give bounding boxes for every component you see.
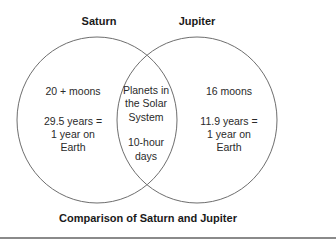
saturn-year-line2: 1 year on — [51, 128, 95, 142]
saturn-year-line1: 29.5 years = — [44, 115, 102, 129]
intersection-line1: Planets in — [123, 84, 169, 98]
venn-diagram: Saturn Jupiter 20 + moons 29.5 years = 1… — [0, 0, 336, 241]
jupiter-title: Jupiter — [179, 15, 216, 27]
intersection-line3: System — [128, 111, 163, 125]
jupiter-year-line3: Earth — [216, 141, 241, 155]
jupiter-year-line2: 1 year on — [207, 128, 251, 142]
saturn-year-line3: Earth — [60, 141, 85, 155]
intersection-line5: days — [135, 150, 157, 164]
jupiter-year-line1: 11.9 years = — [200, 115, 257, 129]
intersection-line4: 10-hour — [128, 136, 164, 150]
bottom-divider — [0, 237, 336, 239]
saturn-moons-text: 20 + moons — [45, 85, 100, 99]
diagram-caption: Comparison of Saturn and Jupiter — [59, 212, 237, 224]
jupiter-moons-text: 16 moons — [206, 85, 252, 99]
saturn-title: Saturn — [82, 15, 117, 27]
intersection-line2: the Solar — [125, 97, 167, 111]
